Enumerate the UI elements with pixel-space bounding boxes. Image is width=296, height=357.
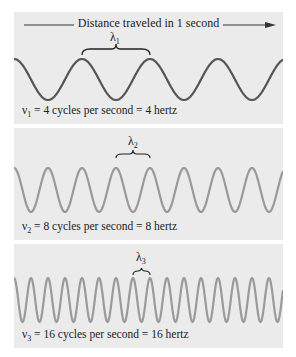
wave-panel-3: λ3 ν3 = 16 cycles per second = 16 hertz [14, 244, 283, 348]
wavelength-1-label: λ1 [110, 30, 120, 46]
wave-3 [14, 278, 283, 322]
frequency-2-label: ν2 = 8 cycles per second = 8 hertz [22, 220, 177, 235]
frequency-3-label: ν3 = 16 cycles per second = 16 hertz [22, 328, 189, 343]
wave-2 [14, 168, 283, 212]
wave-panel-1: Distance traveled in 1 second λ1 ν1 = 4 … [14, 12, 283, 124]
wavelength-3-label: λ3 [136, 250, 146, 266]
wavelength-2-label: λ2 [128, 134, 138, 150]
wave-1 [14, 59, 283, 100]
brace-icon [116, 150, 150, 158]
distance-label: Distance traveled in 1 second [14, 16, 283, 31]
brace-icon [133, 268, 150, 275]
frequency-1-label: ν1 = 4 cycles per second = 4 hertz [22, 104, 177, 119]
wave-panel-2: λ2 ν2 = 8 cycles per second = 8 hertz [14, 128, 283, 240]
